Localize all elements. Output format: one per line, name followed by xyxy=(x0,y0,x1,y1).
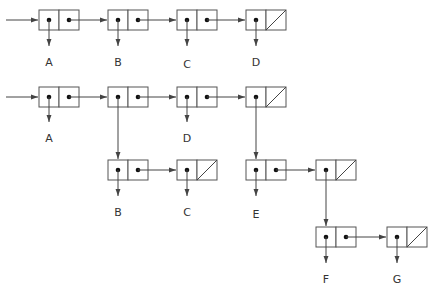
atom-label: C xyxy=(183,206,191,219)
atom-label: D xyxy=(252,56,260,69)
sublist-2: E xyxy=(246,160,356,226)
sublist-3: F G xyxy=(316,227,427,286)
nested-list: A D xyxy=(6,87,286,159)
list-diagram: A B C D xyxy=(0,0,432,290)
atom-label: A xyxy=(45,132,53,145)
cons-cell-nil xyxy=(246,87,286,107)
flat-list: A B C D xyxy=(6,10,286,71)
cons-cell-nil xyxy=(177,160,217,180)
atom-label: C xyxy=(183,58,191,71)
cons-cell-nil xyxy=(387,227,427,247)
atom-label: B xyxy=(114,56,122,69)
atom-label: A xyxy=(45,56,53,69)
cons-cell-nil xyxy=(246,10,286,30)
atom-label: F xyxy=(323,273,329,286)
sublist-1: B C xyxy=(108,160,217,219)
cons-cell-nil xyxy=(316,160,356,180)
atom-label: D xyxy=(183,132,191,145)
atom-label: G xyxy=(393,273,402,286)
atom-label: E xyxy=(253,208,260,221)
atom-label: B xyxy=(114,206,122,219)
